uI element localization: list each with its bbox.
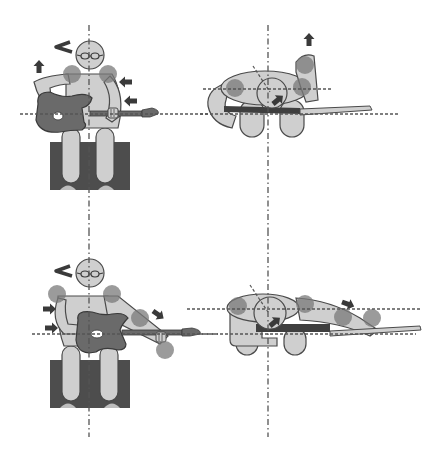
joint-highlight-left-shoulder (229, 297, 247, 315)
joint-highlight-right-shoulder (99, 65, 117, 83)
arrow-left-icon (124, 96, 137, 107)
joint-highlight-left-shoulder (48, 285, 66, 303)
fretting-hand (108, 108, 118, 118)
arrow-left-icon (119, 77, 132, 88)
right-leg (280, 100, 304, 137)
posture-diagram (0, 0, 441, 464)
arrow-down-right-icon (150, 306, 167, 322)
joint-highlight-left-shoulder (63, 65, 81, 83)
panel-top-right (200, 25, 398, 230)
joint-highlight-elbow (296, 56, 314, 74)
joint-highlight-wrist (363, 309, 381, 327)
left-leg (240, 100, 264, 137)
arrow-up-icon (304, 33, 315, 46)
arrow-right-icon (43, 304, 56, 315)
head (257, 78, 287, 108)
joint-highlight-left-shoulder (226, 79, 244, 97)
panel-top-left (20, 25, 210, 230)
right-leg (284, 328, 306, 355)
arrow-right-icon (45, 323, 58, 334)
panel-bottom-right (187, 230, 421, 437)
left-leg (62, 346, 80, 401)
strumming-hand (53, 112, 63, 120)
guitar-headstock (142, 108, 158, 117)
joint-highlight-elbow (131, 309, 149, 327)
head (76, 259, 104, 287)
arrow-up-icon (34, 60, 45, 73)
joint-highlight-right-shoulder (103, 285, 121, 303)
joint-highlight-right-shoulder (293, 78, 311, 96)
joint-highlight-elbow (334, 308, 352, 326)
head (76, 41, 104, 69)
head-tilt-arrow-icon (56, 266, 72, 276)
left-leg (62, 128, 80, 183)
head-tilt-arrow-icon (56, 42, 72, 52)
joint-highlight-wrist (156, 341, 174, 359)
right-leg (100, 346, 118, 401)
panel-bottom-left (32, 230, 218, 437)
right-leg (96, 128, 114, 183)
guitar-headstock (182, 328, 200, 336)
joint-highlight-right-shoulder (296, 295, 314, 313)
